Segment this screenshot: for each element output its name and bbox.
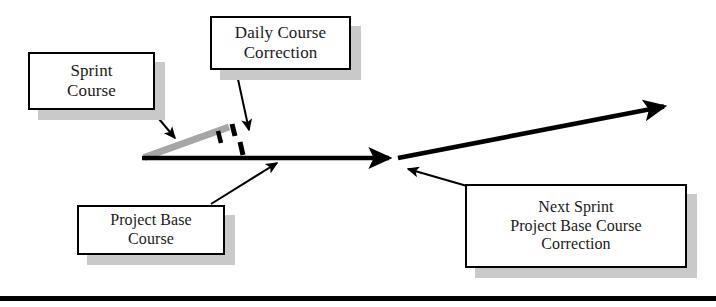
- project-base-course-label-line-1: Project Base: [110, 211, 192, 230]
- daily-course-correction-label-line-2: Correction: [244, 43, 318, 63]
- sprint-course-label-line-2: Course: [67, 81, 116, 101]
- next-sprint-correction-label-line-2: Project Base Course: [510, 217, 642, 236]
- next-sprint-correction-label-box: Next Sprint Project Base Course Correcti…: [465, 184, 687, 268]
- daily-course-correction-label-box: Daily Course Correction: [210, 16, 351, 70]
- sprint-course-label-line-1: Sprint: [70, 61, 112, 81]
- next-sprint-correction-label-line-1: Next Sprint: [538, 198, 613, 217]
- next-sprint-correction-label-line-3: Correction: [541, 235, 610, 254]
- next-sprint-course-arrow: [398, 107, 664, 159]
- footer-horizontal-rule: [0, 296, 716, 301]
- diagram-canvas: Sprint Course Daily Course Correction Pr…: [0, 0, 716, 307]
- project-base-course-label-line-2: Course: [128, 230, 174, 249]
- project-base-course-leader-arrow: [211, 163, 277, 204]
- daily-course-correction-label-line-1: Daily Course: [235, 23, 326, 43]
- next-sprint-leader-arrow: [408, 169, 467, 186]
- project-base-course-label-box: Project Base Course: [77, 205, 225, 255]
- sprint-course-label-box: Sprint Course: [28, 52, 155, 110]
